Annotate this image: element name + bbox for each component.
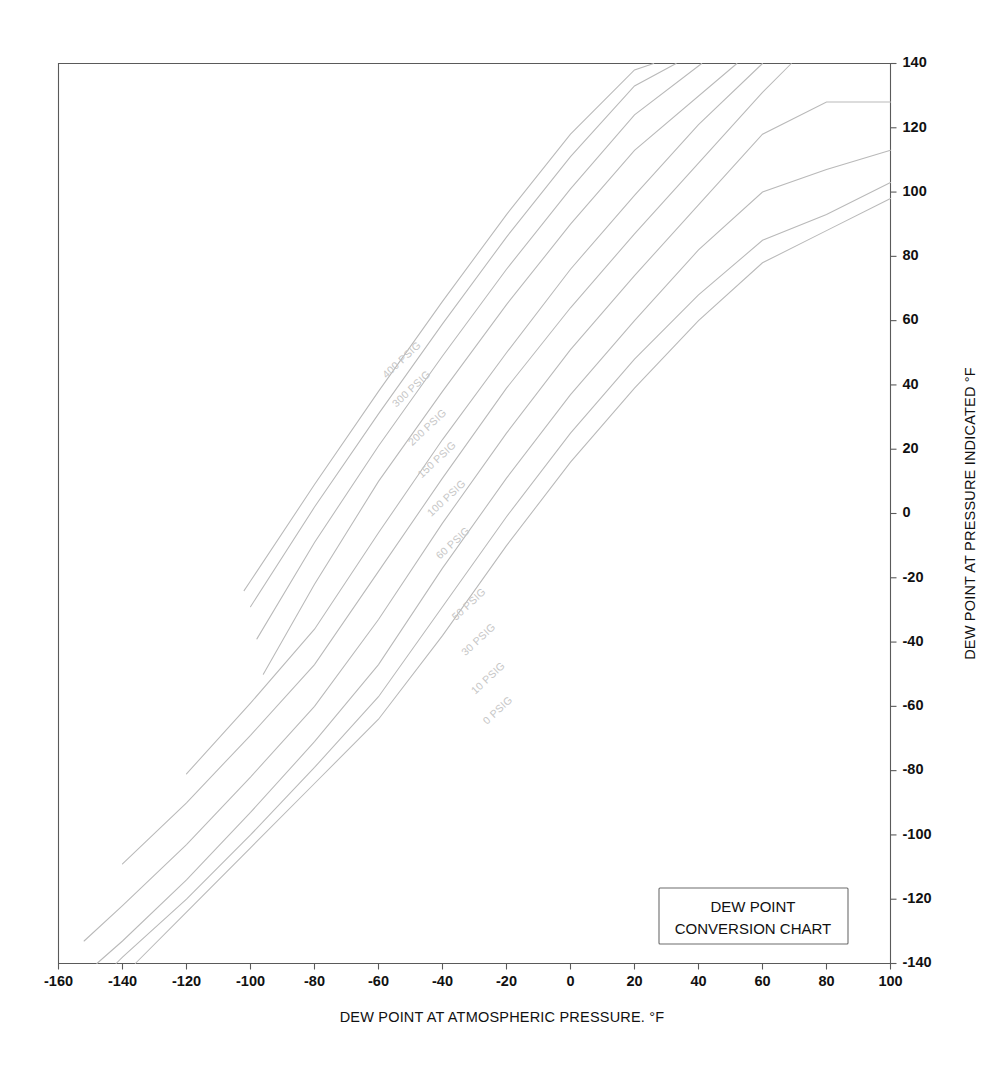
- x-tick-label: -40: [432, 973, 453, 989]
- dew-point-conversion-chart: 400 PSIG300 PSIG200 PSIG150 PSIG100 PSIG…: [0, 0, 1004, 1077]
- y-tick-label: 120: [903, 119, 927, 135]
- x-tick-label: 100: [878, 973, 902, 989]
- y-tick-label: -60: [903, 697, 924, 713]
- y-tick-label: 40: [903, 376, 919, 392]
- x-tick-label: 60: [754, 973, 770, 989]
- legend-line-1: DEW POINT: [711, 898, 796, 915]
- x-tick-label: -20: [496, 973, 517, 989]
- y-tick-label: -40: [903, 633, 924, 649]
- x-tick-label: 40: [690, 973, 706, 989]
- y-axis-title: DEW POINT AT PRESSURE INDICATED °F: [962, 367, 978, 660]
- curve-label-0-psig: 0 PSIG: [480, 693, 514, 726]
- x-tick-label: 80: [818, 973, 834, 989]
- curve-150-psig: [263, 64, 737, 675]
- y-tick-label: 80: [903, 247, 919, 263]
- curve-label-150-psig: 150 PSIG: [415, 438, 458, 479]
- x-tick-label: -60: [368, 973, 389, 989]
- x-tick-label: 0: [566, 973, 574, 989]
- y-tick-label: 100: [903, 183, 927, 199]
- y-tick-label: -100: [903, 826, 932, 842]
- legend-box: DEW POINT CONVERSION CHART: [659, 888, 848, 944]
- legend-line-2: CONVERSION CHART: [675, 920, 831, 937]
- x-tick-label: -80: [304, 973, 325, 989]
- curve-400-psig: [244, 64, 654, 591]
- y-tick-label: 20: [903, 440, 919, 456]
- curve-50-psig: [84, 102, 890, 941]
- y-tick-label: -140: [903, 954, 932, 970]
- plot-border: [59, 64, 891, 964]
- y-tick-label: 140: [903, 54, 927, 70]
- x-tick-label: -160: [44, 973, 73, 989]
- x-tick-label: 20: [626, 973, 642, 989]
- y-tick-label: -80: [903, 761, 924, 777]
- x-axis-ticks: -160-140-120-100-80-60-40-20020406080100: [44, 964, 903, 989]
- curve-0-psig: [135, 199, 890, 964]
- curve-10-psig: [116, 182, 890, 963]
- y-tick-label: 0: [903, 504, 911, 520]
- x-tick-label: -100: [236, 973, 265, 989]
- y-tick-label: 60: [903, 311, 919, 327]
- y-axis-ticks: -140-120-100-80-60-40-200204060801001201…: [891, 54, 932, 970]
- curve-100-psig: [187, 64, 763, 774]
- curve-label-10-psig: 10 PSIG: [468, 659, 507, 696]
- curve-label-100-psig: 100 PSIG: [425, 477, 468, 518]
- plot-frame: [59, 64, 891, 964]
- curve-60-psig: [123, 64, 792, 864]
- curve-label-50-psig: 50 PSIG: [449, 585, 488, 622]
- x-tick-label: -120: [172, 973, 201, 989]
- curve-label-30-psig: 30 PSIG: [459, 621, 498, 658]
- chart-canvas: 400 PSIG300 PSIG200 PSIG150 PSIG100 PSIG…: [0, 0, 1004, 1077]
- curve-label-300-psig: 300 PSIG: [389, 368, 432, 409]
- curve-label-60-psig: 60 PSIG: [433, 524, 472, 561]
- curve-label-group: 400 PSIG300 PSIG200 PSIG150 PSIG100 PSIG…: [380, 339, 515, 727]
- y-tick-label: -120: [903, 890, 932, 906]
- x-tick-label: -140: [108, 973, 137, 989]
- y-tick-label: -20: [903, 569, 924, 585]
- x-axis-title: DEW POINT AT ATMOSPHERIC PRESSURE. °F: [340, 1009, 665, 1025]
- curve-group: [84, 64, 890, 964]
- curve-30-psig: [97, 150, 891, 963]
